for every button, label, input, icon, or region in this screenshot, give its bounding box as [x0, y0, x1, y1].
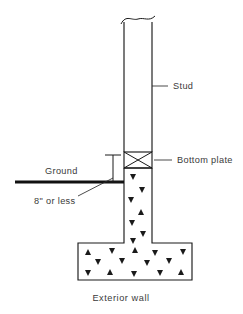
- aggregate-mark: [140, 231, 146, 237]
- aggregate-mark: [157, 270, 163, 276]
- aggregate-mark: [131, 271, 137, 277]
- aggregate-mark: [129, 220, 135, 226]
- ground-label: Ground: [45, 166, 78, 176]
- aggregate-mark: [180, 249, 186, 255]
- exterior-wall-diagram: Stud Bottom plate Ground 8" or less Exte…: [0, 0, 243, 314]
- aggregate-mark: [132, 247, 138, 253]
- stud-shape: [121, 16, 155, 152]
- aggregate-mark: [138, 209, 144, 215]
- aggregate-mark: [85, 270, 91, 276]
- clearance-dimension-marker: [105, 155, 121, 182]
- aggregate-mark: [130, 238, 136, 244]
- aggregate-mark: [107, 269, 113, 275]
- bottom-plate-shape: [124, 152, 152, 168]
- aggregate-mark: [139, 187, 145, 193]
- aggregate-mark: [152, 250, 158, 256]
- aggregate-mark: [109, 248, 115, 254]
- bottom-plate-label: Bottom plate: [177, 155, 233, 165]
- figure-caption: Exterior wall: [92, 293, 149, 303]
- aggregate-mark: [128, 197, 134, 203]
- aggregate-mark: [95, 259, 101, 265]
- stud-break-line: [121, 16, 155, 24]
- stud-label: Stud: [173, 81, 193, 91]
- aggregate-mark: [130, 174, 136, 180]
- diagram-canvas: Stud Bottom plate Ground 8" or less Exte…: [0, 0, 243, 314]
- aggregate-mark: [119, 258, 125, 264]
- foundation-outline: [78, 168, 192, 280]
- clearance-label: 8" or less: [34, 196, 76, 206]
- aggregate-mark: [144, 260, 150, 266]
- concrete-foundation-shape: [78, 168, 192, 280]
- aggregate-hatching: [85, 174, 186, 277]
- aggregate-mark: [166, 258, 172, 264]
- aggregate-mark: [178, 269, 184, 275]
- aggregate-mark: [85, 249, 91, 255]
